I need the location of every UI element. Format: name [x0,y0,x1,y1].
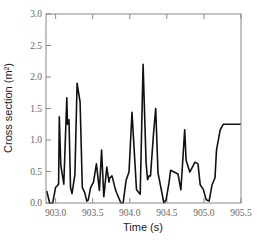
x-tick-label: 905.5 [230,208,252,218]
x-axis-label: Time (s) [123,221,163,233]
x-tick-label: 905.0 [193,208,215,218]
x-tick-label: 904.5 [156,208,178,218]
line-chart: 0.00.51.01.52.02.53.0 903.0903.5904.0904… [0,0,262,247]
y-axis-label: Cross section (m²) [2,63,14,153]
y-tick-label: 1.5 [30,104,42,114]
y-tick-label: 2.5 [30,41,42,51]
cross-section-line [47,64,241,203]
y-tick-label: 0.5 [30,167,42,177]
y-tick-label: 3.0 [30,9,42,19]
y-tick-label: 1.0 [30,135,42,145]
x-tick-label: 903.0 [45,208,67,218]
x-tick-label: 904.0 [119,208,141,218]
y-axis-ticks: 0.00.51.01.52.02.53.0 [30,9,51,208]
y-tick-label: 2.0 [30,72,42,82]
y-tick-label: 0.0 [30,198,42,208]
x-tick-label: 903.5 [82,208,104,218]
